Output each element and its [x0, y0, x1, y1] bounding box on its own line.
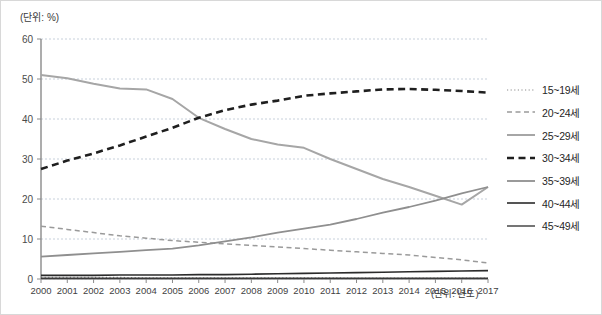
legend-swatch-icon	[506, 198, 536, 208]
x-tick-label: 2011	[320, 285, 340, 296]
x-tick-label: 2014	[399, 285, 420, 296]
x-tick-label: 2001	[57, 285, 78, 296]
series-line-25~29세	[41, 75, 488, 205]
legend-swatch-icon	[506, 130, 536, 140]
x-tick-label: 2000	[30, 285, 51, 296]
x-tick-label: 2006	[188, 285, 209, 296]
x-tick-label: 2013	[372, 285, 393, 296]
data-series-group	[41, 75, 488, 278]
legend-label: 35~39세	[542, 173, 580, 188]
legend-item[interactable]: 15~19세	[506, 83, 601, 97]
x-tick-label: 2016	[451, 285, 472, 296]
legend-item[interactable]: 25~29세	[506, 128, 601, 142]
chart-figure: (단위: %) (단위: 년도) 0102030405060 200020012…	[0, 0, 602, 315]
legend-label: 30~34세	[542, 150, 580, 165]
x-tick-labels-group: 2000200120022003200420052006200720082009…	[30, 285, 498, 296]
y-tick-label: 40	[22, 114, 34, 125]
series-line-30~34세	[41, 89, 488, 169]
y-tick-label: 20	[22, 194, 34, 205]
x-tick-label: 2002	[83, 285, 104, 296]
x-tick-label: 2010	[293, 285, 314, 296]
gridlines-group	[41, 39, 488, 279]
chart-legend: 15~19세20~24세25~29세30~34세35~39세40~44세45~4…	[506, 83, 601, 242]
legend-swatch-icon	[506, 153, 536, 163]
series-line-20~24세	[41, 226, 488, 263]
x-tick-label: 2012	[346, 285, 367, 296]
x-tick-label: 2017	[477, 285, 498, 296]
legend-item[interactable]: 20~24세	[506, 106, 601, 120]
x-tick-label: 2007	[214, 285, 235, 296]
y-tick-label: 60	[22, 34, 34, 45]
x-tick-label: 2008	[241, 285, 262, 296]
y-tick-label: 10	[22, 234, 34, 245]
legend-label: 40~44세	[542, 196, 580, 211]
legend-label: 20~24세	[542, 105, 580, 120]
legend-swatch-icon	[506, 85, 536, 95]
legend-swatch-icon	[506, 221, 536, 231]
axes-group	[41, 39, 488, 279]
x-tick-label: 2003	[109, 285, 130, 296]
y-tick-label: 0	[27, 274, 33, 285]
y-tick-labels-group: 0102030405060	[22, 34, 41, 285]
legend-swatch-icon	[506, 176, 536, 186]
legend-label: 45~49세	[542, 218, 580, 233]
x-tick-label: 2004	[136, 285, 157, 296]
legend-item[interactable]: 45~49세	[506, 219, 601, 233]
y-tick-label: 30	[22, 154, 34, 165]
x-tick-label: 2015	[425, 285, 446, 296]
legend-label: 15~19세	[542, 82, 580, 97]
y-tick-label: 50	[22, 74, 34, 85]
x-tick-label: 2009	[267, 285, 288, 296]
legend-item[interactable]: 40~44세	[506, 196, 601, 210]
legend-label: 25~29세	[542, 128, 580, 143]
legend-swatch-icon	[506, 107, 536, 117]
legend-item[interactable]: 30~34세	[506, 151, 601, 165]
x-tick-label: 2005	[162, 285, 183, 296]
series-line-40~44세	[41, 271, 488, 276]
legend-item[interactable]: 35~39세	[506, 174, 601, 188]
